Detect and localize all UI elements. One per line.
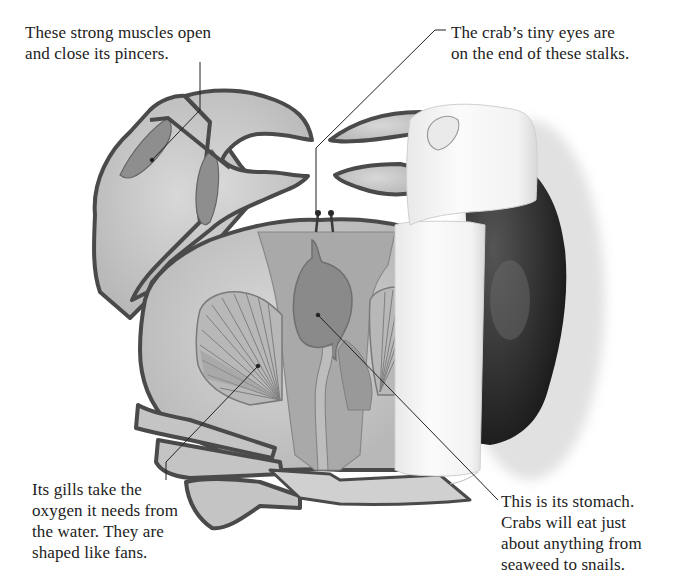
caption-line: These strong muscles open bbox=[25, 22, 211, 43]
caption-line: and close its pincers. bbox=[25, 43, 211, 64]
caption-stomach: This is its stomach. Crabs will eat just… bbox=[501, 491, 642, 575]
caption-line: Its gills take the bbox=[32, 479, 178, 500]
caption-gills: Its gills take the oxygen it needs from … bbox=[32, 479, 178, 563]
caption-line: the water. They are bbox=[32, 521, 178, 542]
caption-line: The crab’s tiny eyes are bbox=[451, 22, 629, 43]
caption-line: seaweed to snails. bbox=[501, 554, 642, 575]
caption-line: about anything from bbox=[501, 533, 642, 554]
caption-muscles: These strong muscles open and close its … bbox=[25, 22, 211, 64]
caption-line: This is its stomach. bbox=[501, 491, 642, 512]
caption-line: shaped like fans. bbox=[32, 542, 178, 563]
caption-line: Crabs will eat just bbox=[501, 512, 642, 533]
caption-eyes: The crab’s tiny eyes are on the end of t… bbox=[451, 22, 629, 64]
caption-line: on the end of these stalks. bbox=[451, 43, 629, 64]
caption-line: oxygen it needs from bbox=[32, 500, 178, 521]
